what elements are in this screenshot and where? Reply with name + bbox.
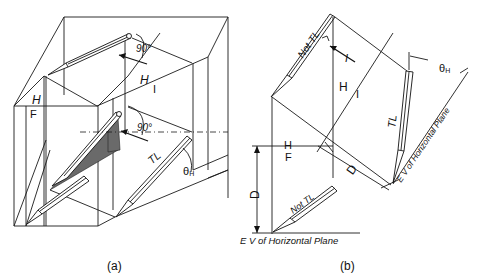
plane-hf-f: F [30,108,37,120]
figure-a-isometric-box [14,17,228,226]
angle-label-mid: 90° [137,122,152,133]
dist-label-right: D [343,162,360,177]
plane-hi-i-b: I [356,88,359,100]
pencil-true-length-a [116,136,192,217]
dist-label-left: D [248,190,262,199]
plane-hi-i: I [153,83,156,95]
view-arrow-label: I [345,52,348,64]
ev-label-bottom: E V of Horizontal Plane [240,235,338,246]
theta-label-b: θH [439,62,450,74]
plane-hf-h-b: H [284,139,292,151]
caption-a: (a) [107,259,122,273]
technical-drawing: 90° H I H F 90° TL θH (a) [0,0,481,278]
plane-hi-h: H [140,73,149,87]
plane-hi-h-b: H [339,80,348,94]
plane-hf-f-b: F [285,151,292,163]
angle-label-top: 90° [136,43,151,54]
theta-label-a: θH [183,165,194,177]
plane-hf-h: H [32,93,41,107]
pencil-top-view-a [48,34,132,76]
caption-b: (b) [340,259,355,273]
tl-label-b: TL [385,114,398,128]
tl-label-a: TL [145,149,163,166]
